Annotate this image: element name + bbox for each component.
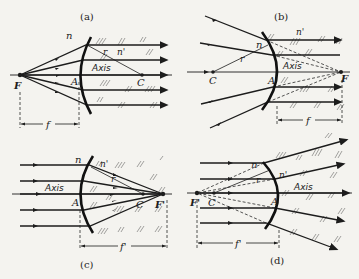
panel-d-label-n: n [251, 159, 257, 170]
panel-d-label-axis: Axis [293, 182, 313, 192]
panel-c-label-f-prime: f' [119, 241, 126, 252]
panel-a-focal-point [18, 73, 22, 77]
panel-c-label-r: r [111, 174, 116, 184]
panel-a: (a) [10, 11, 172, 130]
diagram-canvas: (a) [0, 0, 359, 279]
panel-d-caption: (d) [270, 255, 284, 266]
panel-b-label-F: F [340, 73, 349, 84]
panel-c-caption: (c) [80, 259, 94, 270]
panel-d-label-n-prime: n' [279, 170, 287, 180]
panel-a-label-A: A [70, 76, 78, 87]
panel-c-label-A: A [71, 197, 79, 208]
panel-a-label-F: F [13, 80, 22, 91]
panel-a-label-r: r [103, 47, 108, 57]
panel-b-label-r: r [240, 54, 245, 64]
panel-d-label-r: r [256, 175, 261, 185]
panel-b-caption: (b) [274, 11, 288, 22]
panel-c-label-F-prime: F' [154, 199, 165, 210]
panel-c-label-n-prime: n' [100, 159, 108, 169]
panel-c-label-axis: Axis [44, 183, 64, 193]
panel-d-center-point [212, 191, 216, 195]
panel-b-label-axis: Axis [282, 61, 302, 71]
panel-b-label-C: C [209, 75, 217, 86]
panel-d-label-C: C [208, 197, 216, 208]
panel-b-refracting-surface [262, 32, 277, 110]
panel-a-label-C: C [137, 77, 145, 88]
panel-c-radius-line [91, 167, 143, 194]
panel-c-center-point [141, 192, 145, 196]
panel-a-label-f: f [45, 119, 52, 130]
panel-d-label-F-prime: F' [189, 197, 200, 208]
panel-a-rays [20, 45, 166, 105]
panel-c: n n' r Axis A C F' f' (c) [12, 154, 172, 270]
panel-a-label-n: n [66, 30, 72, 41]
panel-c-label-n: n [75, 154, 81, 165]
panel-a-label-axis: Axis [91, 63, 111, 73]
panel-d-label-f-prime: f' [234, 238, 241, 249]
panel-d-medium-hatching [276, 149, 345, 242]
panel-a-caption: (a) [80, 11, 94, 22]
panel-b: (b) [187, 11, 350, 138]
panel-c-focal-point [161, 192, 165, 196]
panel-d-label-A: A [270, 196, 278, 207]
refraction-diagram: (a) [0, 0, 359, 279]
panel-c-label-C: C [136, 199, 144, 210]
panel-b-label-A: A [267, 75, 275, 86]
panel-c-rays [20, 163, 163, 228]
panel-b-center-point [211, 70, 215, 74]
panel-d: n n' r Axis A C F' f' (d) [187, 140, 352, 266]
panel-d-rays [200, 140, 348, 249]
panel-b-label-n-prime: n' [296, 27, 304, 37]
panel-b-label-n: n [256, 39, 262, 50]
panel-a-label-n-prime: n' [117, 47, 125, 57]
panel-b-label-f: f [305, 115, 312, 126]
panel-d-focal-point [195, 191, 199, 195]
panel-a-dimension-f: f [20, 82, 79, 130]
